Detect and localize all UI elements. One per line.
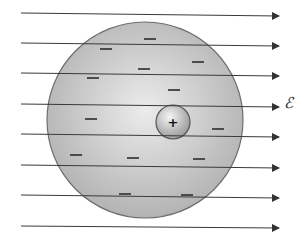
minus-charge-icon <box>119 193 131 195</box>
atom-field-diagram: + <box>0 0 304 241</box>
minus-charge-icon <box>127 157 139 159</box>
minus-charge-icon <box>138 68 150 70</box>
minus-charge-icon <box>144 38 156 40</box>
plus-charge-icon: + <box>168 115 179 130</box>
electron-cloud <box>47 22 243 218</box>
minus-charge-icon <box>168 89 180 91</box>
electron-cloud-circle <box>47 22 243 218</box>
nucleus: + <box>156 105 190 139</box>
minus-charge-icon <box>193 158 205 160</box>
electric-field-label: ℰ <box>284 96 293 111</box>
minus-charge-icon <box>70 154 82 156</box>
minus-charge-icon <box>87 77 99 79</box>
minus-charge-icon <box>181 194 193 196</box>
minus-charge-icon <box>212 128 224 130</box>
minus-charge-icon <box>85 118 97 120</box>
minus-charge-icon <box>192 61 204 63</box>
field-line-arrow <box>21 13 279 16</box>
field-line-arrow <box>21 226 279 228</box>
minus-charge-icon <box>100 48 112 50</box>
